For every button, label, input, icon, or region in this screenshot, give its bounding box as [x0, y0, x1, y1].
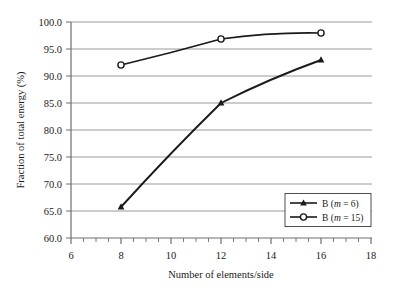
y-axis-title: Fraction of total energy (%) — [15, 71, 27, 189]
y-tick-label: 70.0 — [44, 179, 62, 190]
y-tick-label: 100.0 — [38, 17, 62, 28]
y-tick-label: 95.0 — [44, 44, 62, 55]
y-tick-label: 60.0 — [44, 233, 62, 244]
figure-container: 100.0 95.0 90.0 85.0 80.0 75.0 70.0 65.0… — [0, 0, 396, 297]
legend-label-b-m6: B (m = 6) — [322, 199, 359, 210]
series-b-m6-line — [121, 60, 321, 207]
legend-label-prefix: B ( — [322, 213, 334, 224]
y-tick-label: 90.0 — [44, 71, 62, 82]
line-chart: 100.0 95.0 90.0 85.0 80.0 75.0 70.0 65.0… — [0, 0, 396, 297]
x-tick-labels: 6 8 10 12 14 16 18 — [68, 250, 376, 261]
x-tick-label: 16 — [316, 250, 327, 261]
legend-label-suffix: = 6) — [341, 199, 359, 210]
legend-label-b-m15: B (m = 15) — [322, 213, 364, 224]
gridlines-horizontal — [71, 22, 372, 211]
legend-label-suffix: = 15) — [341, 213, 364, 224]
data-point-marker — [218, 36, 224, 42]
data-point-marker — [318, 30, 324, 36]
x-axis-major-ticks — [71, 238, 371, 244]
x-tick-label: 6 — [68, 250, 73, 261]
x-tick-label: 12 — [216, 250, 227, 261]
y-tick-label: 75.0 — [44, 152, 62, 163]
y-tick-labels: 100.0 95.0 90.0 85.0 80.0 75.0 70.0 65.0… — [38, 17, 62, 244]
series-b-m6 — [118, 56, 325, 209]
open-circle-icon — [300, 214, 306, 220]
legend-label-prefix: B ( — [322, 199, 334, 210]
data-point-marker — [118, 62, 124, 68]
y-axis-ticks — [66, 22, 71, 238]
x-axis-title: Number of elements/side — [168, 269, 274, 280]
legend: B (m = 6) B (m = 15) — [285, 194, 371, 227]
x-tick-label: 10 — [166, 250, 177, 261]
plot-area: 100.0 95.0 90.0 85.0 80.0 75.0 70.0 65.0… — [0, 0, 396, 297]
y-tick-label: 65.0 — [44, 206, 62, 217]
data-point-marker — [318, 56, 325, 62]
y-tick-label: 80.0 — [44, 125, 62, 136]
x-tick-label: 8 — [118, 250, 123, 261]
x-tick-label: 18 — [366, 250, 377, 261]
x-tick-label: 14 — [266, 250, 277, 261]
y-tick-label: 85.0 — [44, 98, 62, 109]
